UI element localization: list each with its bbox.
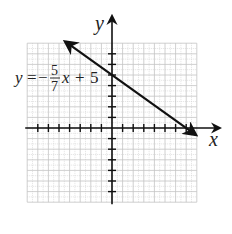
equation-line	[65, 42, 195, 135]
coordinate-graph: x y y = − 5 7 x + 5	[0, 0, 232, 234]
eq-plus: +	[75, 68, 85, 87]
eq-minus: −	[38, 68, 48, 87]
eq-y: y	[13, 68, 23, 87]
eq-x: x	[61, 68, 70, 87]
eq-constant: 5	[90, 68, 99, 87]
y-axis-label: y	[93, 12, 104, 35]
eq-equals: =	[27, 68, 37, 87]
x-axis-label: x	[208, 128, 218, 150]
eq-numerator: 5	[51, 63, 58, 78]
eq-denominator: 7	[51, 79, 58, 94]
